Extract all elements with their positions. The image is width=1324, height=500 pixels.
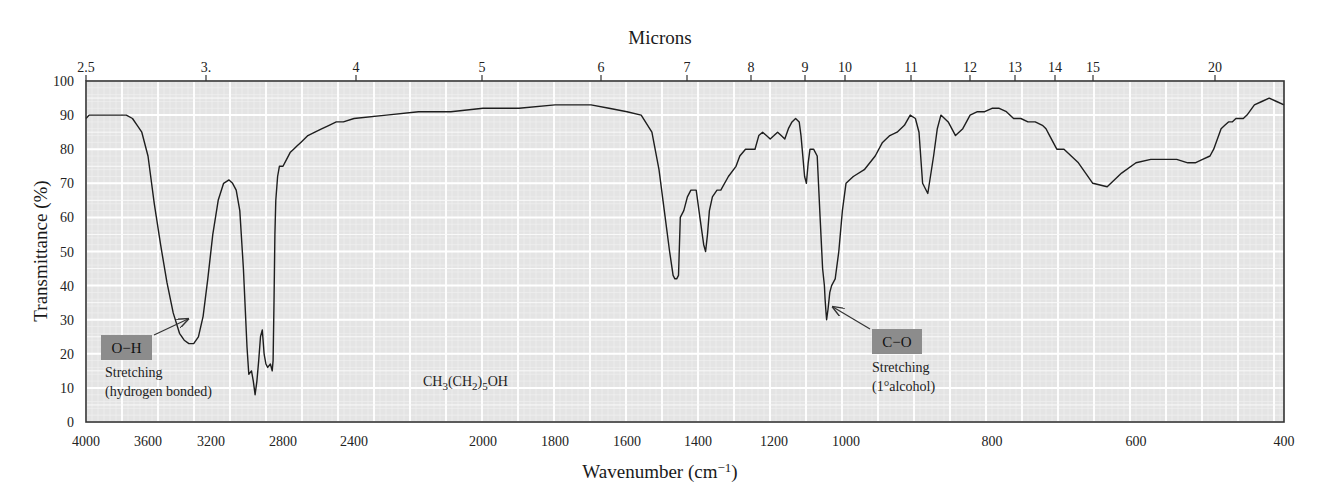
- x-tick-label: 2800: [269, 434, 297, 449]
- y-tick-label: 90: [60, 108, 74, 123]
- y-tick-label: 20: [60, 347, 74, 362]
- top-tick-label: 6: [598, 60, 605, 75]
- top-axis-title: Microns: [628, 27, 691, 48]
- top-tick-label: 4: [353, 60, 360, 75]
- y-tick-label: 0: [67, 415, 74, 430]
- x-tick-label: 1000: [832, 434, 860, 449]
- x-tick-label: 1400: [684, 434, 712, 449]
- x-tick-label: 1800: [541, 434, 569, 449]
- top-tick-label: 3.: [201, 60, 212, 75]
- y-tick-label: 70: [60, 176, 74, 191]
- top-tick-label: 14: [1048, 60, 1062, 75]
- x-tick-label: 1600: [613, 434, 641, 449]
- co-badge-label: C−O: [882, 334, 911, 350]
- oh-line1: Stretching: [105, 365, 163, 380]
- x-tick-label: 2400: [340, 434, 368, 449]
- oh-badge-label: O−H: [111, 340, 141, 356]
- x-axis-title: Wavenumber (cm−1): [582, 460, 737, 483]
- co-line2: (1°alcohol): [872, 379, 935, 395]
- y-tick-label: 80: [60, 142, 74, 157]
- y-axis-ticks: 0102030405060708090100: [53, 74, 74, 430]
- top-tick-label: 2.5: [77, 60, 95, 75]
- x-tick-label: 3200: [197, 434, 225, 449]
- top-tick-label: 10: [838, 60, 852, 75]
- x-tick-label: 4000: [72, 434, 100, 449]
- top-tick-label: 13: [1008, 60, 1022, 75]
- y-tick-label: 100: [53, 74, 74, 89]
- top-tick-label: 12: [963, 60, 977, 75]
- top-tick-label: 20: [1208, 60, 1222, 75]
- x-tick-label: 2000: [469, 434, 497, 449]
- x-tick-label: 1200: [760, 434, 788, 449]
- x-tick-label: 400: [1274, 434, 1295, 449]
- y-tick-label: 50: [60, 245, 74, 260]
- top-tick-label: 15: [1086, 60, 1100, 75]
- x-tick-label: 3600: [134, 434, 162, 449]
- top-tick-label: 11: [904, 60, 917, 75]
- ir-spectrum-chart: Microns 2.53.45678910111213141520 010203…: [0, 0, 1324, 500]
- x-tick-label: 800: [982, 434, 1003, 449]
- y-axis-title: Transmittance (%): [30, 180, 52, 321]
- top-tick-label: 7: [684, 60, 691, 75]
- top-tick-label: 8: [748, 60, 755, 75]
- top-tick-label: 9: [802, 60, 809, 75]
- top-axis-ticks: 2.53.45678910111213141520: [77, 60, 1222, 81]
- y-tick-label: 60: [60, 210, 74, 225]
- y-tick-label: 30: [60, 313, 74, 328]
- oh-line2: (hydrogen bonded): [105, 384, 212, 400]
- y-tick-label: 10: [60, 381, 74, 396]
- x-tick-label: 600: [1126, 434, 1147, 449]
- x-axis-ticks: 4000360032002800240020001800160014001200…: [72, 434, 1295, 449]
- top-tick-label: 5: [479, 60, 486, 75]
- y-tick-label: 40: [60, 279, 74, 294]
- grid-major: [86, 81, 1284, 422]
- co-line1: Stretching: [872, 360, 930, 375]
